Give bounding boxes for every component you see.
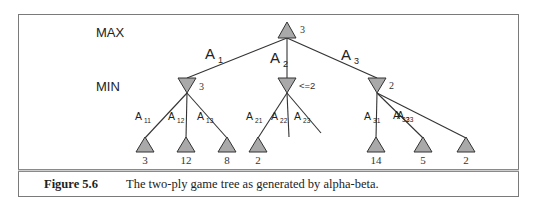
figure-caption-text: The two-ply game tree as generated by al…	[126, 177, 379, 191]
leaf-value-a12: 12	[181, 154, 192, 166]
move-label-a23: A23	[294, 110, 311, 124]
figure-number: Figure 5.6	[44, 177, 126, 192]
leaf-value-a21: 2	[255, 154, 261, 166]
move-label-a2: A2	[270, 49, 288, 69]
min-value-a3: 2	[389, 80, 394, 91]
min-node-a2	[278, 78, 296, 93]
leaf-value-a13: 8	[224, 154, 230, 166]
move-label-a13: A13	[197, 110, 214, 124]
min-node-a1	[178, 78, 196, 93]
min-value-a1: 3	[199, 81, 204, 92]
min-value-a2: <=2	[299, 80, 315, 91]
leaf-a31	[367, 137, 385, 152]
leaf-value-a32: 5	[420, 154, 426, 166]
leaf-a32	[414, 137, 432, 152]
max-node-root	[278, 22, 296, 38]
leaf-a12	[177, 137, 195, 152]
move-label-a31: A31	[364, 110, 381, 124]
leaf-a11	[136, 137, 154, 152]
leaf-value-a11: 3	[142, 154, 148, 166]
move-label-a22: A22	[271, 110, 288, 124]
leaf-a21	[249, 137, 267, 152]
figure-caption: Figure 5.6The two-ply game tree as gener…	[44, 177, 379, 192]
move-label-a21: A21	[246, 110, 263, 124]
leaf-value-a33: 2	[463, 154, 469, 166]
move-label-a11: A11	[135, 110, 151, 124]
move-label-a33: A33	[397, 109, 414, 123]
min-node-a3	[368, 78, 386, 93]
move-label-a1: A1	[205, 45, 223, 65]
move-label-a12: A12	[168, 110, 185, 124]
leaf-value-a31: 14	[371, 154, 383, 166]
leaf-a13	[218, 137, 236, 152]
game-tree: 3 3 <=2 2 3 12 8 2 14 5 2 A1 A2 A3 A11 A…	[0, 0, 535, 206]
leaf-a33	[457, 137, 475, 152]
root-value: 3	[300, 24, 305, 35]
